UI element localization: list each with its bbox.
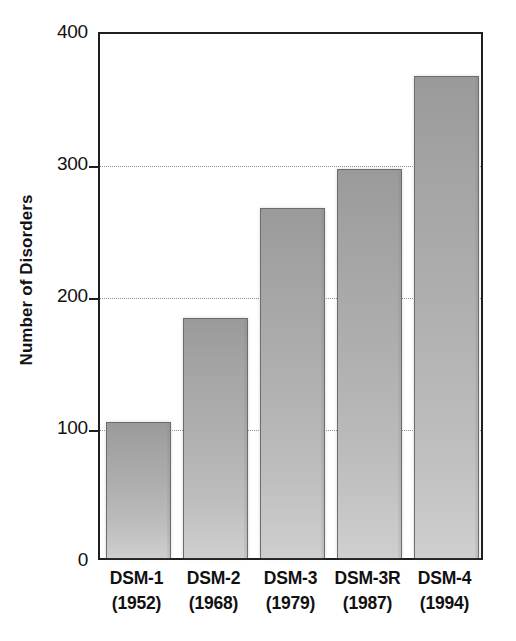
x-axis-label-dsm-1: DSM-1(1952) (98, 566, 175, 616)
x-axis-label-name: DSM-4 (418, 568, 471, 588)
y-tick-label-100: 100 (57, 417, 88, 439)
y-tick-mark-100 (89, 430, 100, 432)
bar-chart-figure: Number of Disorders 0100200300400 DSM-1(… (0, 0, 516, 641)
x-axis-label-year: (1952) (98, 591, 175, 616)
y-tick-label-0: 0 (78, 549, 88, 571)
y-axis-tick-labels: 0100200300400 (44, 0, 94, 641)
x-axis-label-dsm-3r: DSM-3R(1987) (329, 566, 406, 616)
x-axis-label-name: DSM-2 (187, 568, 240, 588)
y-axis-title-text: Number of Disorders (16, 195, 36, 366)
bar-dsm-2[interactable] (183, 318, 248, 558)
x-axis-label-name: DSM-1 (110, 568, 163, 588)
bar-dsm-3[interactable] (260, 208, 325, 558)
x-axis-labels: DSM-1(1952)DSM-2(1968)DSM-3(1979)DSM-3R(… (98, 566, 483, 638)
bar-dsm-4[interactable] (414, 76, 479, 558)
y-tick-label-200: 200 (57, 285, 88, 307)
x-axis-label-year: (1987) (329, 591, 406, 616)
y-axis-title: Number of Disorders (0, 0, 52, 560)
x-axis-label-year: (1979) (252, 591, 329, 616)
y-tick-label-400: 400 (57, 21, 88, 43)
bar-dsm-1[interactable] (106, 422, 171, 558)
x-axis-label-name: DSM-3 (264, 568, 317, 588)
x-axis-label-year: (1994) (406, 591, 483, 616)
bars-layer (100, 34, 481, 558)
y-tick-mark-300 (89, 166, 100, 168)
x-axis-label-dsm-2: DSM-2(1968) (175, 566, 252, 616)
x-axis-label-year: (1968) (175, 591, 252, 616)
y-tick-label-300: 300 (57, 153, 88, 175)
y-tick-mark-200 (89, 298, 100, 300)
plot-area (98, 32, 483, 560)
x-axis-label-dsm-4: DSM-4(1994) (406, 566, 483, 616)
x-axis-label-dsm-3: DSM-3(1979) (252, 566, 329, 616)
x-axis-label-name: DSM-3R (335, 568, 401, 588)
bar-dsm-3r[interactable] (337, 169, 402, 558)
